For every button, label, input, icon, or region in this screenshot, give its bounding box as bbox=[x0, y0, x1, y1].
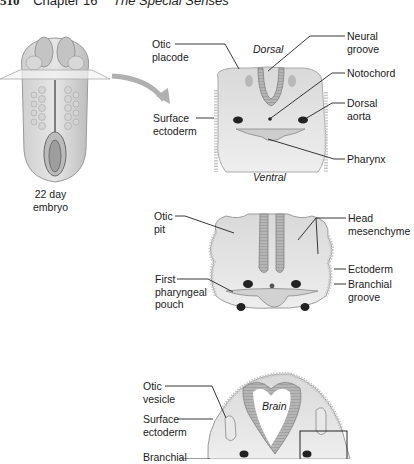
label-line: Otic bbox=[143, 380, 175, 393]
label-neural-groove: Neural groove bbox=[347, 30, 379, 55]
label-surface-ectoderm-1: Surface ectoderm bbox=[153, 112, 197, 137]
label-line: Surface bbox=[153, 112, 197, 125]
embryo-caption: 22 day embryo bbox=[33, 188, 68, 213]
embryo-illustration bbox=[0, 37, 170, 182]
label-branchial: Branchial bbox=[143, 451, 187, 464]
label-surface-ectoderm-3: Surface ectoderm bbox=[143, 413, 187, 438]
cross-section-2 bbox=[210, 214, 332, 311]
dorsal-label: Dorsal bbox=[253, 43, 283, 56]
label-line: groove bbox=[347, 43, 379, 56]
label-line: Branchial bbox=[348, 278, 392, 291]
label-line: First bbox=[155, 273, 207, 286]
caption-line: 22 day bbox=[33, 188, 68, 201]
ventral-label: Ventral bbox=[253, 171, 286, 184]
label-line: Head bbox=[348, 212, 410, 225]
label-otic-vesicle: Otic vesicle bbox=[143, 380, 175, 405]
label-line: pit bbox=[154, 223, 173, 236]
label-notochord: Notochord bbox=[347, 67, 395, 80]
label-pharynx: Pharynx bbox=[347, 153, 386, 166]
label-dorsal-aorta: Dorsal aorta bbox=[347, 97, 377, 122]
cross-section-3 bbox=[208, 374, 350, 459]
label-otic-pit: Otic pit bbox=[154, 210, 173, 235]
label-line: Otic bbox=[154, 210, 173, 223]
label-otic-placode: Otic placode bbox=[152, 38, 189, 63]
label-line: aorta bbox=[347, 110, 377, 123]
label-ectoderm: Ectoderm bbox=[348, 263, 393, 276]
label-line: ectoderm bbox=[153, 125, 197, 138]
label-line: Dorsal bbox=[347, 97, 377, 110]
label-line: groove bbox=[348, 291, 392, 304]
caption-line: embryo bbox=[33, 201, 68, 214]
label-line: pouch bbox=[155, 298, 207, 311]
label-branchial-groove: Branchial groove bbox=[348, 278, 392, 303]
label-line: vesicle bbox=[143, 393, 175, 406]
label-line: Otic bbox=[152, 38, 189, 51]
label-line: ectoderm bbox=[143, 426, 187, 439]
label-line: pharyngeal bbox=[155, 286, 207, 299]
brain-label: Brain bbox=[262, 400, 287, 413]
cross-section-1 bbox=[216, 67, 326, 172]
label-head-mesenchyme: Head mesenchyme bbox=[348, 212, 410, 237]
label-first-pharyngeal-pouch: First pharyngeal pouch bbox=[155, 273, 207, 311]
label-line: mesenchyme bbox=[348, 225, 410, 238]
label-line: Neural bbox=[347, 30, 379, 43]
label-line: placode bbox=[152, 51, 189, 64]
label-line: Surface bbox=[143, 413, 187, 426]
